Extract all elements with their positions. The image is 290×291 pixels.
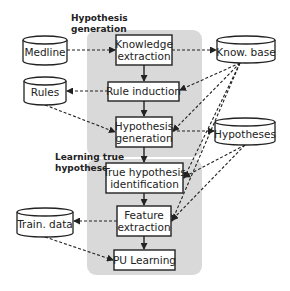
datastore-hypotheses[interactable]: Hypotheses <box>214 118 276 145</box>
svg-text:Rule induction: Rule induction <box>106 85 181 97</box>
svg-text:generation: generation <box>71 24 127 34</box>
svg-text:Hypothesis: Hypothesis <box>71 13 128 23</box>
svg-text:Feature: Feature <box>124 209 164 221</box>
svg-text:True hypothesis: True hypothesis <box>102 166 186 178</box>
svg-text:Train. data: Train. data <box>16 218 73 230</box>
svg-text:Hypotheses: Hypotheses <box>214 128 276 140</box>
datastore-medline[interactable]: Medline <box>23 36 67 65</box>
svg-text:Hypothesis: Hypothesis <box>115 120 173 132</box>
svg-text:Rules: Rules <box>31 86 59 98</box>
section-label-hypothesis-generation: Hypothesis generation <box>71 13 128 34</box>
datastore-rules[interactable]: Rules <box>24 77 66 105</box>
pipeline-diagram: Hypothesis generation Learning true hypo… <box>0 0 290 291</box>
svg-text:PU Learning: PU Learning <box>113 254 176 266</box>
svg-text:Medline: Medline <box>24 46 65 58</box>
datastore-train-data[interactable]: Train. data <box>16 208 73 237</box>
box-knowledge-extraction[interactable]: Knowledge extraction <box>115 35 173 65</box>
svg-text:Know. base: Know. base <box>216 46 275 58</box>
svg-text:extraction: extraction <box>117 50 170 62</box>
svg-text:extraction: extraction <box>117 221 170 233</box>
svg-text:Learning true: Learning true <box>55 152 124 162</box>
box-rule-induction[interactable]: Rule induction <box>106 82 181 101</box>
box-pu-learning[interactable]: PU Learning <box>113 250 176 270</box>
box-hypothesis-generation[interactable]: Hypothesis generation <box>115 117 173 147</box>
svg-text:identification: identification <box>110 178 179 190</box>
box-feature-extraction[interactable]: Feature extraction <box>117 206 171 236</box>
datastore-know-base[interactable]: Know. base <box>216 36 275 63</box>
svg-text:generation: generation <box>115 132 172 144</box>
box-true-hypothesis-identification[interactable]: True hypothesis identification <box>102 163 186 193</box>
svg-text:Knowledge: Knowledge <box>115 38 173 50</box>
